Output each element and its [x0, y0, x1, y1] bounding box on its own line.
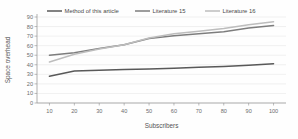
chart-legend: Method of this articleLiterature 15Liter… — [47, 8, 256, 14]
x-axis-tick-label: 40 — [121, 108, 127, 114]
y-axis-tick-label: 70 — [27, 33, 33, 39]
x-axis-tick-label: 10 — [46, 108, 52, 114]
legend-label-2: Literature 16 — [223, 8, 257, 14]
y-axis-tick-label: 40 — [27, 62, 33, 68]
x-axis-tick-label: 60 — [171, 108, 177, 114]
series-lines — [49, 22, 273, 76]
y-axis-tick-label: 80 — [27, 24, 33, 30]
x-axis-tick-label: 20 — [71, 108, 77, 114]
line-chart: 0102030405060708090 10203040506070809010… — [0, 0, 298, 139]
y-axis-tick-label: 10 — [27, 90, 33, 96]
x-axis-tick-label: 90 — [246, 108, 252, 114]
x-axis-tick-label: 30 — [96, 108, 102, 114]
x-axis-tick-label: 50 — [146, 108, 152, 114]
chart-figure: 0102030405060708090 10203040506070809010… — [0, 0, 298, 139]
y-axis-tick-labels: 0102030405060708090 — [27, 14, 33, 106]
series-line-2 — [49, 22, 273, 62]
x-axis-title: Subscribers — [145, 122, 179, 129]
x-axis-tick-label: 100 — [269, 108, 278, 114]
x-axis-tick-label: 80 — [221, 108, 227, 114]
grid-lines — [37, 17, 286, 103]
x-axis-tick-labels: 102030405060708090100 — [46, 108, 278, 114]
y-axis-tick-label: 60 — [27, 43, 33, 49]
y-axis-tick-label: 0 — [30, 100, 33, 106]
y-axis-tick-label: 50 — [27, 52, 33, 58]
y-axis-title: Space overhead — [4, 36, 12, 83]
series-line-1 — [49, 26, 273, 56]
y-axis-tick-label: 30 — [27, 71, 33, 77]
y-axis-tick-label: 20 — [27, 81, 33, 87]
x-axis-tick-label: 70 — [196, 108, 202, 114]
legend-label-1: Literature 15 — [153, 8, 187, 14]
y-axis-tick-label: 90 — [27, 14, 33, 20]
legend-label-0: Method of this article — [65, 8, 120, 14]
